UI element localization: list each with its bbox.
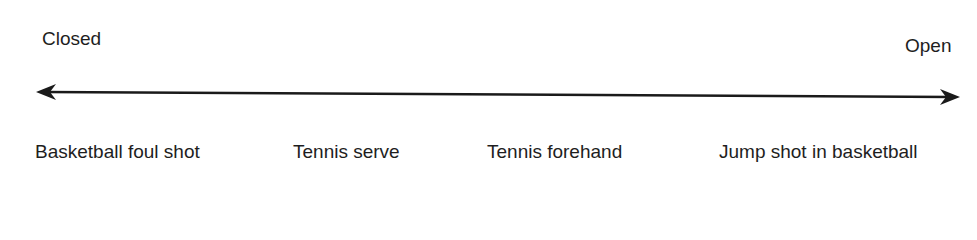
continuum-item: Tennis forehand	[487, 142, 622, 161]
axis-line	[44, 92, 952, 97]
continuum-item: Tennis serve	[293, 142, 400, 161]
continuum-item: Jump shot in basketball	[719, 142, 918, 161]
continuum-item: Basketball foul shot	[35, 142, 200, 161]
